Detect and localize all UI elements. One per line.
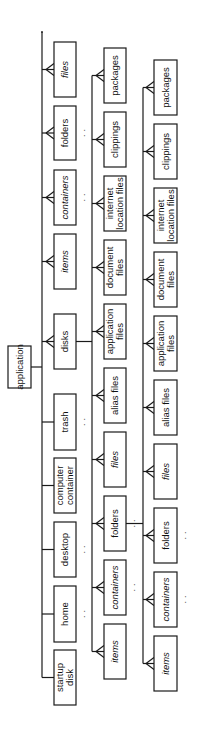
column-3-folders-many-connector <box>143 530 154 542</box>
node-label-column-2-alias-files: alias files <box>109 376 120 415</box>
more-indicator-column-1-containers: · · <box>79 193 89 202</box>
column-2-clippings-many-connector <box>92 134 104 146</box>
more-indicator-column-2-containers: · · <box>129 583 139 592</box>
column-1-items-many-connector <box>42 256 54 268</box>
column-2-application-files-many-connector <box>92 326 104 338</box>
more-indicator-column-1-trash: · · <box>79 418 89 427</box>
column-2-items-many-connector <box>92 646 104 658</box>
column-2-folders-many-connector <box>92 518 104 530</box>
node-label-column-3-containers: containers <box>160 577 171 621</box>
node-label-column-1-trash: trash <box>59 411 70 432</box>
column-2-containers-many-connector <box>92 582 104 594</box>
node-label-column-2-files: files <box>109 451 120 468</box>
object-hierarchy-diagram: applicationfilesfolders· ·containers· ·i… <box>0 0 200 746</box>
trunk-end-dot <box>41 31 43 33</box>
node-label-column-1-disks: disks <box>59 330 70 352</box>
column-3-internet-location-files-many-connector <box>143 210 154 222</box>
column-1-folders-many-connector <box>42 127 54 139</box>
node-label-column-1-computer-container: computercontainer <box>54 466 75 506</box>
node-label-column-2-containers: containers <box>109 565 120 609</box>
column-3-document-files-many-connector <box>143 274 154 286</box>
more-indicator-column-3-containers: · · <box>180 595 190 604</box>
column-1-disks-many-connector <box>42 336 54 348</box>
node-label-column-1-folders: folders <box>59 118 70 147</box>
column-3-containers-many-connector <box>143 594 154 606</box>
column-3-clippings-many-connector <box>143 146 154 158</box>
node-label-column-1-files: files <box>59 61 70 78</box>
more-indicator-column-1-home: · · <box>79 610 89 619</box>
more-indicator-column-2-folders: · · <box>129 519 139 528</box>
column-3-files-many-connector <box>143 466 154 478</box>
node-label-column-1-desktop: desktop <box>59 533 70 566</box>
column-2-alias-files-many-connector <box>92 390 104 402</box>
node-label-column-2-packages: packages <box>109 55 120 96</box>
node-label-column-3-files: files <box>160 463 171 480</box>
column-3-application-files-many-connector <box>143 338 154 350</box>
more-indicator-column-3-folders: · · <box>180 531 190 540</box>
column-1-files-many-connector <box>42 64 54 76</box>
node-label-column-3-packages: packages <box>160 67 171 108</box>
column-2-document-files-many-connector <box>92 262 104 274</box>
connector-lines <box>31 31 154 677</box>
column-1-containers-many-connector <box>42 192 54 204</box>
column-3-packages-many-connector <box>143 82 154 94</box>
node-label-column-3-alias-files: alias files <box>160 388 171 427</box>
column-2-packages-many-connector <box>92 70 104 82</box>
node-label-column-1-containers: containers <box>59 175 70 219</box>
column-2-files-many-connector <box>92 454 104 466</box>
node-label-column-2-clippings: clippings <box>109 121 120 158</box>
column-3-items-many-connector <box>143 658 154 670</box>
more-indicator-column-1-desktop: · · <box>79 545 89 554</box>
column-3-alias-files-many-connector <box>143 402 154 414</box>
more-indicator-column-1-folders: · · <box>79 129 89 138</box>
node-label-column-1-home: home <box>59 602 70 626</box>
node-label-column-3-clippings: clippings <box>160 133 171 170</box>
node-label-column-2-folders: folders <box>109 509 120 538</box>
column-2-internet-location-files-many-connector <box>92 198 104 210</box>
node-label-column-2-items: items <box>109 640 120 663</box>
node-label-column-3-items: items <box>160 652 171 675</box>
node-label-column-3-folders: folders <box>160 521 171 550</box>
node-label-column-1-items: items <box>59 250 70 273</box>
node-label-application: application <box>14 344 25 389</box>
